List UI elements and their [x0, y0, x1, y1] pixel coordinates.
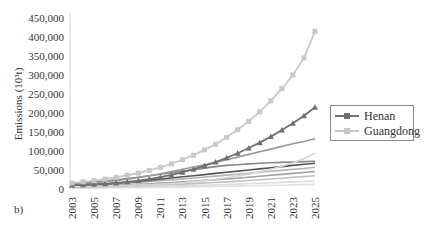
y-axis: 050,000100,000150,000200,000250,000300,0…	[28, 12, 64, 195]
data-point-marker	[92, 178, 97, 183]
legend-swatch-guangdong	[335, 126, 359, 136]
data-point-marker	[136, 171, 141, 176]
data-point-marker	[301, 55, 306, 60]
data-point-marker	[114, 175, 119, 180]
data-point-marker	[70, 180, 75, 185]
data-point-marker	[202, 147, 207, 152]
x-tick-label: 2009	[132, 197, 144, 220]
x-tick-label: 2021	[265, 197, 277, 219]
data-point-marker	[169, 161, 174, 166]
series-line-guangdong	[72, 31, 315, 183]
x-tick-label: 2025	[309, 197, 321, 220]
x-tick-label: 2007	[110, 197, 122, 220]
y-tick-label: 300,000	[28, 69, 64, 81]
y-tick-label: 400,000	[28, 31, 64, 43]
data-point-marker	[81, 179, 86, 184]
y-tick-label: 250,000	[28, 88, 64, 100]
x-axis: 2003200520072009201120132015201720192021…	[66, 197, 321, 220]
data-point-marker	[235, 127, 240, 132]
legend-label-henan: Henan	[364, 109, 395, 124]
y-tick-label: 350,000	[28, 50, 64, 62]
data-point-marker	[191, 153, 196, 158]
data-point-marker	[257, 109, 262, 114]
y-tick-label: 50,000	[34, 164, 65, 176]
legend-label-guangdong: Guangdong	[364, 124, 420, 139]
data-point-marker	[213, 142, 218, 147]
x-tick-label: 2019	[243, 197, 255, 220]
x-tick-label: 2015	[199, 197, 211, 220]
legend-item-guangdong: Guangdong	[335, 124, 420, 138]
series-lines	[69, 29, 318, 188]
x-tick-label: 2013	[176, 197, 188, 220]
y-tick-label: 450,000	[28, 12, 64, 24]
x-tick-label: 2023	[287, 197, 299, 220]
legend-item-henan: Henan	[335, 109, 395, 123]
data-point-marker	[224, 135, 229, 140]
y-tick-label: 0	[59, 183, 65, 195]
x-tick-label: 2017	[221, 197, 233, 220]
data-point-marker	[158, 165, 163, 170]
legend: Henan Guangdong	[330, 105, 414, 141]
series-line-province-6	[72, 161, 315, 183]
data-point-marker	[180, 157, 185, 162]
data-point-marker	[246, 119, 251, 124]
data-point-marker	[103, 177, 108, 182]
y-axis-label: Emissions (10³t)	[12, 67, 25, 140]
x-tick-label: 2003	[66, 197, 78, 220]
data-point-marker	[279, 86, 284, 91]
data-point-marker	[147, 168, 152, 173]
data-point-marker	[290, 73, 295, 78]
x-tick-label: 2011	[154, 197, 166, 219]
y-tick-label: 150,000	[28, 126, 64, 138]
data-point-marker	[268, 98, 273, 103]
legend-swatch-henan	[335, 111, 359, 121]
data-point-marker	[312, 104, 318, 110]
series-line-henan	[72, 107, 315, 185]
y-tick-label: 200,000	[28, 107, 64, 119]
data-point-marker	[313, 29, 318, 34]
data-point-marker	[125, 173, 130, 178]
panel-label: b)	[14, 203, 24, 216]
y-tick-label: 100,000	[28, 145, 64, 157]
x-tick-label: 2005	[88, 197, 100, 220]
